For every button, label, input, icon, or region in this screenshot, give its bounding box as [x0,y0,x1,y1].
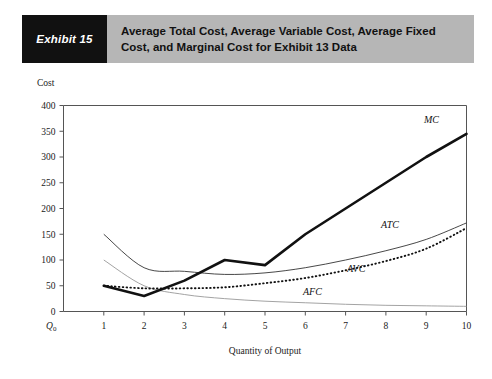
y-axis-title: Cost [37,78,55,88]
x-tick-label: 10 [462,321,472,331]
series-label-afc: AFC [302,286,322,297]
y-tick-label: 100 [41,255,56,265]
y-tick-label: 0 [51,307,56,317]
y-tick-label: 350 [41,127,56,137]
x-tick-label: 5 [263,321,268,331]
exhibit-title: Average Total Cost, Average Variable Cos… [107,15,474,63]
x-tick-label: 4 [222,321,227,331]
series-label-atc: ATC [380,219,399,230]
series-label-avc: AVC [346,263,366,274]
y-tick-label: 250 [41,178,56,188]
exhibit-number-tag: Exhibit 15 [22,15,107,63]
x-tick-label: 3 [182,321,187,331]
plot-axes [64,106,467,312]
x-axis-ticks: 12345678910 [101,312,471,331]
x-tick-label: 2 [142,321,147,331]
y-tick-label: 50 [46,281,56,291]
cost-curves-chart: Cost 050100150200250300350400 1234567891… [0,63,492,379]
y-tick-label: 200 [41,204,56,214]
x-tick-label: 7 [343,321,348,331]
chart-canvas: Cost 050100150200250300350400 1234567891… [0,63,492,379]
x-tick-label: 9 [424,321,429,331]
origin-label-subscript: 0 [53,325,57,333]
series-line-afc [104,260,467,306]
y-tick-label: 400 [41,101,56,111]
exhibit-title-text: Average Total Cost, Average Variable Cos… [121,23,436,55]
exhibit-title-line-2: Cost, and Marginal Cost for Exhibit 13 D… [121,39,436,55]
x-axis-title: Quantity of Output [229,346,302,356]
series-line-mc [104,134,467,296]
origin-label: Q0 [46,321,57,333]
x-tick-label: 1 [101,321,106,331]
exhibit-title-line-1: Average Total Cost, Average Variable Cos… [121,23,436,39]
exhibit-header: Exhibit 15 Average Total Cost, Average V… [22,15,474,63]
y-tick-label: 300 [41,152,56,162]
y-axis-ticks: 050100150200250300350400 [41,101,63,317]
x-tick-label: 6 [303,321,308,331]
y-tick-label: 150 [41,230,56,240]
series-line-avc [104,228,467,288]
series-label-mc: MC [423,114,439,125]
x-tick-label: 8 [384,321,389,331]
